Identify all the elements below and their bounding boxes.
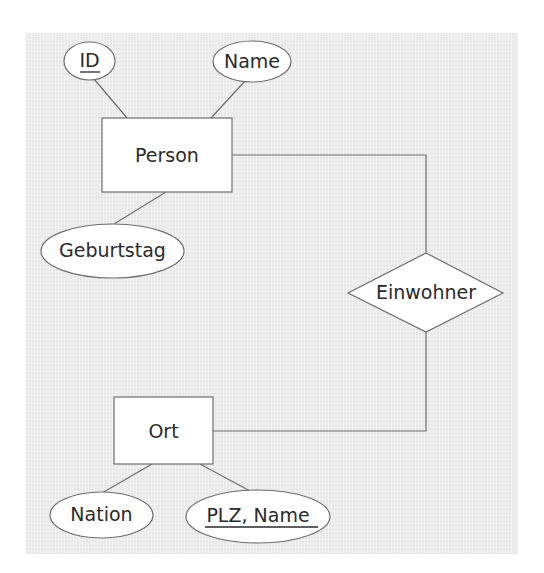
entity-label-ort: Ort xyxy=(148,420,178,442)
connector-person-einwohner xyxy=(232,155,426,253)
relationship-einwohner: Einwohner xyxy=(348,253,503,332)
entity-label-person: Person xyxy=(135,144,199,166)
er-diagram: ID Name Person Geburtstag Einwohner Ort … xyxy=(0,0,544,573)
attribute-label-nation: Nation xyxy=(70,503,132,525)
attribute-label-id: ID xyxy=(79,49,99,71)
connector-person-geburtstag xyxy=(114,192,166,224)
entity-person: Person xyxy=(102,118,232,192)
connector-ort-plz-name xyxy=(200,464,250,491)
connector-ort-nation xyxy=(102,464,152,493)
attribute-label-plz-name: PLZ, Name xyxy=(206,504,309,526)
attribute-plz-name: PLZ, Name xyxy=(186,490,330,543)
attribute-geburtstag: Geburtstag xyxy=(41,224,184,278)
entity-ort: Ort xyxy=(114,397,213,464)
connector-name-person xyxy=(211,81,245,118)
connector-einwohner-ort xyxy=(213,332,426,431)
attribute-id: ID xyxy=(64,42,115,80)
relationship-label-einwohner: Einwohner xyxy=(376,281,476,303)
connector-id-person xyxy=(94,79,127,118)
attribute-label-name: Name xyxy=(224,50,280,72)
attribute-nation: Nation xyxy=(50,492,153,538)
attribute-label-geburtstag: Geburtstag xyxy=(59,239,166,261)
attribute-name: Name xyxy=(213,41,291,82)
